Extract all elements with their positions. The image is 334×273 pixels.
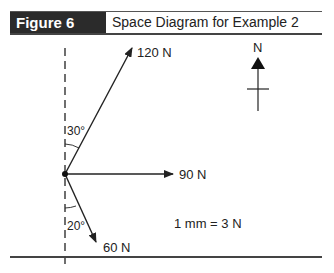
angle-20-arc [65,206,76,208]
north-indicator: N [247,40,269,111]
force-60-label: 60 N [103,240,130,255]
north-arrow-icon [251,57,265,69]
angle-30-arc [65,144,79,148]
force-60-vector: 60 N 20° [65,174,130,255]
force-90-vector: 90 N [65,167,206,182]
north-label: N [253,40,262,55]
force-120-vector: 120 N 30° [65,45,172,174]
footer-rule [10,256,322,258]
space-diagram: 120 N 30° 90 N 60 N 20° N 1 mm = 3 N [0,0,334,273]
scale-label: 1 mm = 3 N [174,216,242,231]
angle-20-label: 20° [67,219,85,233]
angle-30-label: 30° [67,124,85,138]
force-90-label: 90 N [179,167,206,182]
force-120-label: 120 N [137,45,172,60]
origin-point [62,171,68,177]
